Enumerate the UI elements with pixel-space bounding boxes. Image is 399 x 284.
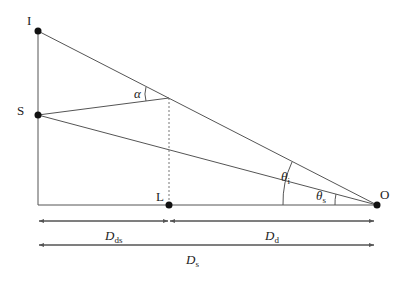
lens-point <box>166 202 173 209</box>
d-d-label: Dd <box>264 228 279 245</box>
d-ds-symbol: D <box>104 228 115 243</box>
d-s-sub: s <box>195 259 199 269</box>
observer-point <box>374 202 381 209</box>
image-ray <box>38 31 377 205</box>
theta-s-sub: s <box>322 195 326 205</box>
d-s-label: Ds <box>185 252 199 269</box>
theta-i-label: θi <box>281 169 290 186</box>
d-d-sub: d <box>274 235 279 245</box>
theta-s-arc <box>335 194 336 205</box>
source-ray <box>38 115 377 205</box>
observer-label: O <box>380 187 389 202</box>
image-label: I <box>27 13 31 28</box>
d-s-symbol: D <box>185 252 196 267</box>
alpha-label: α <box>134 86 142 101</box>
alpha-arc <box>145 87 146 101</box>
d-ds-label: Dds <box>104 228 123 245</box>
lens-label: L <box>156 189 164 204</box>
source-label: S <box>17 103 24 118</box>
lensing-diagram: I S L O α θi θs Dds Dd Ds <box>0 0 399 284</box>
deflected-ray-segment <box>38 98 169 115</box>
image-point <box>35 28 42 35</box>
d-d-symbol: D <box>264 228 275 243</box>
d-ds-sub: ds <box>114 235 123 245</box>
theta-s-label: θs <box>316 188 326 205</box>
theta-i-sub: i <box>287 176 290 186</box>
source-point <box>35 112 42 119</box>
